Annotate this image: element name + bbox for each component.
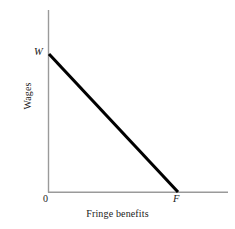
origin-label: 0 — [43, 193, 48, 204]
x-intercept-label: F — [173, 193, 179, 204]
budget-constraint-line — [49, 54, 178, 192]
chart-plot-area — [0, 0, 235, 229]
x-axis-title: Fringe benefits — [0, 208, 235, 219]
chart-figure: W 0 F Wages Fringe benefits — [0, 0, 235, 229]
y-intercept-label: W — [34, 46, 43, 57]
y-axis-title: Wages — [22, 82, 33, 109]
